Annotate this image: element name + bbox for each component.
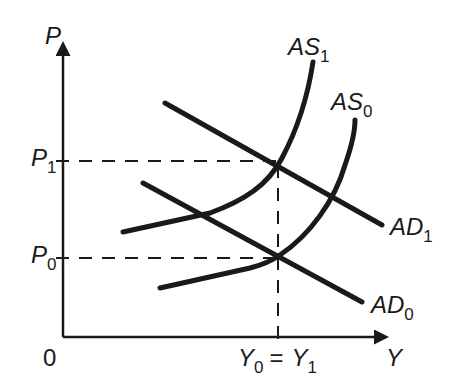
- y-axis-label: Y: [386, 344, 404, 371]
- as1-curve: [123, 62, 313, 232]
- ad0-label: AD0: [369, 291, 414, 324]
- p1-label: P1: [31, 144, 56, 177]
- origin-label: 0: [43, 344, 56, 371]
- ad-as-diagram: P Y 0 P1 P0 Y0=Y1 AS1 AS0 AD1 AD0: [0, 0, 450, 392]
- ad1-curve: [165, 103, 382, 225]
- ad1-label: AD1: [388, 213, 433, 246]
- p-axis-label: P: [45, 22, 61, 49]
- as0-label: AS0: [329, 88, 372, 121]
- p0-label: P0: [31, 241, 56, 274]
- y0-equals-y1-label: Y0=Y1: [238, 344, 317, 377]
- as0-curve: [160, 120, 355, 288]
- as1-label: AS1: [286, 33, 329, 66]
